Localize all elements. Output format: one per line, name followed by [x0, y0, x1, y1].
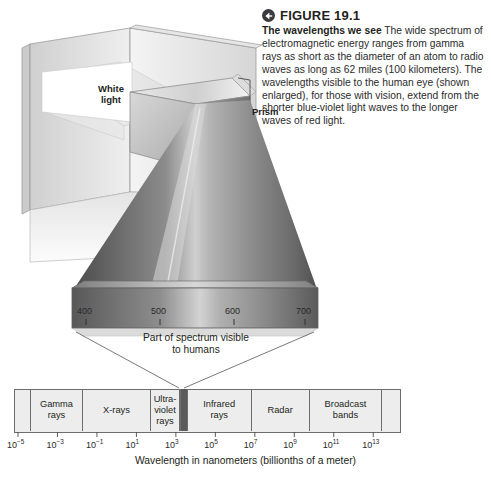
spectrum-band-gamma-rays: Gammarays	[31, 389, 83, 431]
figure-caption-body: The wavelengths we see The wide spectrum…	[262, 25, 486, 128]
axis-tick-label-10e-3: 10−3	[46, 438, 63, 450]
spectrum-band-label: Infraredrays	[203, 399, 235, 421]
spectrum-band-empty-0	[14, 389, 31, 431]
spectrum-band-infrared-rays: Infraredrays	[188, 389, 252, 431]
spectrum-band-radar: Radar	[252, 389, 310, 431]
spectrum-band-x-rays: X-rays	[83, 389, 151, 431]
spectrum-band-visible-light	[180, 389, 188, 431]
spectrum-band-ultra-violet-rays: Ultra-violetrays	[151, 389, 180, 431]
spectrum-axis-title: Wavelength in nanometers (billionths of …	[0, 455, 491, 466]
electromagnetic-spectrum-bar: GammaraysX-raysUltra-violetraysInfraredr…	[14, 389, 401, 433]
prism-label: Prism	[252, 106, 278, 117]
axis-tick-label-10e1: 101	[125, 438, 139, 450]
white-light-label-line1: White	[88, 83, 134, 94]
figure-caption: FIGURE 19.1 The wavelengths we see The w…	[262, 8, 486, 128]
figure-caption-text: The wide spectrum of electromagnetic ene…	[262, 25, 484, 126]
spectrum-band-label: Broadcastbands	[325, 399, 367, 421]
axis-tick-label-10e5: 105	[204, 438, 218, 450]
spectrum-band-label: Radar	[267, 405, 292, 416]
axis-tick-label-10e7: 107	[244, 438, 258, 450]
spectrum-band-label: X-rays	[103, 405, 130, 416]
spectrum-band-label: Gammarays	[40, 399, 73, 421]
axis-tick-label-10e-5: 10−5	[7, 438, 24, 450]
axis-tick-label-10e11: 1011	[323, 438, 340, 450]
figure-caption-title: The wavelengths we see	[262, 25, 382, 36]
back-arrow-icon	[262, 9, 275, 22]
figure-19-1: FIGURE 19.1 The wavelengths we see The w…	[0, 0, 491, 479]
spectrum-band-label: Ultra-violetrays	[154, 394, 177, 427]
spectrum-band-empty-8	[382, 389, 401, 431]
axis-tick-label-10e-1: 10−1	[86, 438, 103, 450]
visible-spectrum-slab	[72, 281, 318, 336]
visible-spectrum-caption-line1: Part of spectrum visible	[96, 332, 296, 344]
wavelength-tick-500: 500	[151, 306, 166, 316]
wavelength-tick-700: 700	[296, 306, 311, 316]
white-light-label-line2: light	[88, 94, 134, 105]
axis-tick-label-10e3: 103	[165, 438, 179, 450]
white-light-label: White light	[88, 83, 134, 105]
wavelength-tick-400: 400	[77, 306, 92, 316]
wavelength-tick-600: 600	[225, 306, 240, 316]
figure-number: FIGURE 19.1	[280, 8, 360, 23]
visible-spectrum-caption-line2: to humans	[96, 344, 296, 356]
axis-tick-label-10e13: 1013	[362, 438, 379, 450]
visible-spectrum-caption: Part of spectrum visible to humans	[96, 332, 296, 356]
figure-caption-header: FIGURE 19.1	[262, 8, 486, 23]
axis-tick-label-10e9: 109	[283, 438, 297, 450]
spectrum-band-broadcast-bands: Broadcastbands	[310, 389, 383, 431]
